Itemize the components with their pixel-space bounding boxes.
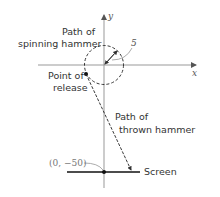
release-label-line2: release — [53, 82, 88, 93]
hammer-diagram: x y 5 Path of spinning hammer Point of r… — [0, 0, 220, 197]
point-leader — [84, 163, 103, 170]
thrown-label-line1: Path of — [115, 111, 149, 122]
y-axis-label: y — [107, 11, 114, 21]
point-label: (0, −50) — [49, 158, 86, 168]
thrown-label-line2: thrown hammer — [119, 124, 195, 135]
screen-origin-point — [102, 170, 106, 174]
radius-arrow-back — [105, 54, 114, 64]
spinning-label-line1: Path of — [62, 26, 96, 37]
x-axis-label: x — [192, 68, 197, 78]
radius-label: 5 — [131, 38, 137, 48]
spinning-label-line2: spinning hammer — [18, 38, 102, 49]
radius-leader — [112, 48, 132, 60]
release-label-line1: Point of — [48, 70, 84, 81]
thrown-path-line — [86, 74, 131, 170]
screen-label: Screen — [144, 166, 177, 177]
